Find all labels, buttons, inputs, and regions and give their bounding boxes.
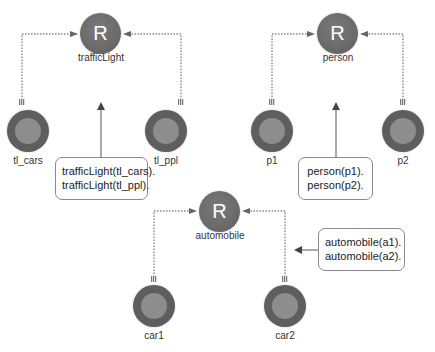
port-handle-icon[interactable] xyxy=(269,99,275,105)
instance-label-p1: p1 xyxy=(266,155,277,166)
fact-line: automobile(a1). xyxy=(325,235,398,249)
instance-core xyxy=(141,293,167,319)
instance-node-tl-ppl[interactable] xyxy=(145,110,187,152)
edge-car2-to-automobile xyxy=(243,211,285,277)
instance-core xyxy=(15,118,41,144)
relation-node-person[interactable]: R xyxy=(317,13,358,54)
edge-p1-to-person xyxy=(272,34,314,100)
port-handle-icon[interactable] xyxy=(400,99,406,105)
relation-label-person: person xyxy=(323,52,354,63)
relation-symbol: R xyxy=(212,200,226,223)
facts-callout-person: person(p1). person(p2). xyxy=(298,157,373,200)
instance-core xyxy=(272,293,298,319)
relation-node-trafficlight[interactable]: R xyxy=(80,13,121,54)
edge-tl-ppl-to-trafficlight xyxy=(124,34,181,100)
port-handle-icon[interactable] xyxy=(178,99,184,105)
instance-core xyxy=(153,118,179,144)
fact-line: trafficLight(tl_cars). xyxy=(62,164,141,178)
edge-p2-to-person xyxy=(361,34,403,100)
instance-label-tl-cars: tl_cars xyxy=(13,155,42,166)
instance-node-tl-cars[interactable] xyxy=(7,110,49,152)
port-handle-icon[interactable] xyxy=(282,276,288,282)
relation-node-automobile[interactable]: R xyxy=(199,191,240,232)
fact-line: automobile(a2). xyxy=(325,249,398,263)
instance-label-tl-ppl: tl_ppl xyxy=(154,155,178,166)
fact-line: trafficLight(tl_ppl). xyxy=(62,178,141,192)
instance-label-car2: car2 xyxy=(275,330,294,341)
relation-label-automobile: automobile xyxy=(196,230,245,241)
instance-node-car2[interactable] xyxy=(264,285,306,327)
facts-callout-automobile: automobile(a1). automobile(a2). xyxy=(318,228,405,271)
facts-callout-trafficlight: trafficLight(tl_cars). trafficLight(tl_p… xyxy=(55,157,148,200)
fact-line: person(p2). xyxy=(305,178,366,192)
instance-core xyxy=(259,118,285,144)
instance-node-car1[interactable] xyxy=(133,285,175,327)
instance-node-p2[interactable] xyxy=(382,110,424,152)
instance-node-p1[interactable] xyxy=(251,110,293,152)
edge-car1-to-automobile xyxy=(154,211,196,277)
edge-tl-cars-to-trafficlight xyxy=(22,34,77,100)
port-handle-icon[interactable] xyxy=(151,276,157,282)
instance-core xyxy=(390,118,416,144)
relation-label-trafficlight: trafficLight xyxy=(78,52,124,63)
instance-label-p2: p2 xyxy=(397,155,408,166)
relation-symbol: R xyxy=(330,22,344,45)
fact-line: person(p1). xyxy=(305,164,366,178)
instance-label-car1: car1 xyxy=(144,330,163,341)
relation-symbol: R xyxy=(93,22,107,45)
port-handle-icon[interactable] xyxy=(19,99,25,105)
